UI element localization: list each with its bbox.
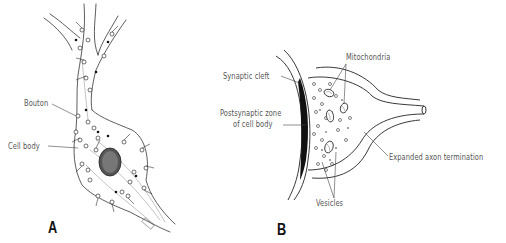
cell-body-leader-line: [48, 146, 78, 148]
label-cell-body: Cell body: [8, 141, 40, 151]
synaptic-cleft-leader-line: [281, 76, 302, 84]
vesicles-leader-line-2: [334, 152, 336, 198]
figure: Bouton Cell body A Synaptic cleft Postsy…: [0, 0, 506, 243]
bouton-leader-line: [52, 104, 76, 116]
label-postsynaptic-zone-line2: of cell body: [233, 119, 273, 129]
label-postsynaptic-zone-line1: Postsynaptic zone: [220, 108, 281, 118]
label-expanded-axon-termination: Expanded axon termination: [389, 152, 483, 162]
label-vesicles: Vesicles: [316, 198, 343, 208]
label-synaptic-cleft: Synaptic cleft: [223, 71, 270, 81]
panel-letter-a: A: [48, 218, 57, 238]
axon-termination-leader-line: [364, 132, 388, 156]
truncated-caption: [0, 236, 506, 243]
label-bouton: Bouton: [24, 98, 48, 108]
label-mitochondria: Mitochondria: [346, 52, 390, 62]
